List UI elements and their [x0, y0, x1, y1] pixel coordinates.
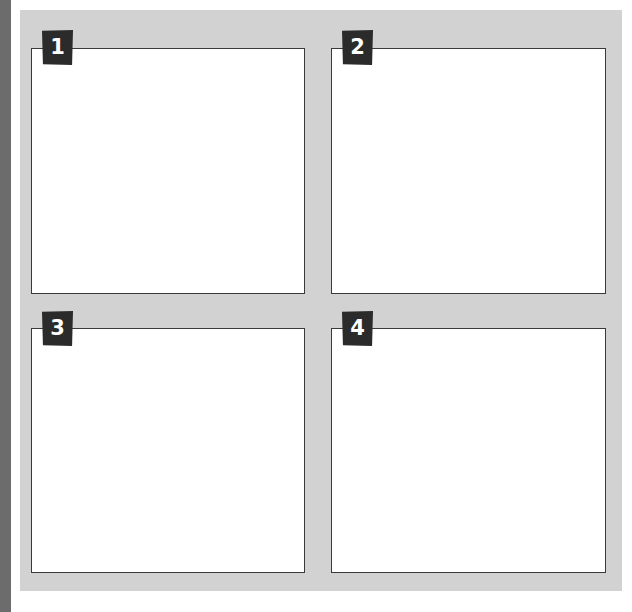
left-edge-strip [0, 0, 11, 612]
panel-box-1[interactable] [31, 48, 305, 294]
panel-number-badge-1: 1 [42, 30, 73, 65]
panel-box-4[interactable] [331, 328, 606, 573]
panel-box-3[interactable] [31, 328, 305, 573]
panel-number-badge-2: 2 [342, 30, 373, 65]
panel-number-badge-3: 3 [42, 311, 73, 346]
panel-number-badge-4: 4 [342, 311, 373, 346]
panel-box-2[interactable] [331, 48, 606, 294]
worksheet-page: 1 2 3 4 [0, 0, 632, 612]
